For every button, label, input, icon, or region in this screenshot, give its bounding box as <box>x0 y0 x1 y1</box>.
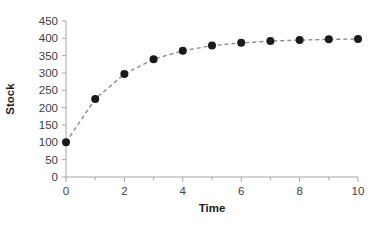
y-tick-label: 350 <box>39 50 58 62</box>
x-tick-label: 8 <box>296 185 302 197</box>
y-tick-label: 200 <box>39 102 58 114</box>
data-point <box>150 55 158 63</box>
x-tick-label: 10 <box>352 185 365 197</box>
x-tick-label: 6 <box>238 185 244 197</box>
y-axis-title: Stock <box>4 83 16 115</box>
y-tick-label: 0 <box>52 171 58 183</box>
data-point <box>62 138 70 146</box>
y-tick-label: 150 <box>39 119 58 131</box>
data-point <box>179 47 187 55</box>
x-tick-label: 2 <box>121 185 127 197</box>
y-tick-label: 450 <box>39 15 58 27</box>
y-tick-label: 250 <box>39 84 58 96</box>
x-tick-label: 4 <box>180 185 187 197</box>
data-point <box>266 37 274 45</box>
y-tick-label: 50 <box>45 154 58 166</box>
x-axis-title: Time <box>199 202 226 214</box>
chart-container: 050100150200250300350400450 0246810 Time… <box>0 0 379 227</box>
y-tick-label: 100 <box>39 136 58 148</box>
line-chart: 050100150200250300350400450 0246810 Time… <box>0 0 379 227</box>
data-point <box>296 36 304 44</box>
data-point <box>208 42 216 50</box>
data-point <box>354 35 362 43</box>
data-point <box>91 95 99 103</box>
x-tick-label: 0 <box>63 185 69 197</box>
y-tick-label: 300 <box>39 67 58 79</box>
data-point <box>237 39 245 47</box>
data-point <box>120 70 128 78</box>
data-point <box>325 35 333 43</box>
y-tick-label: 400 <box>39 32 58 44</box>
